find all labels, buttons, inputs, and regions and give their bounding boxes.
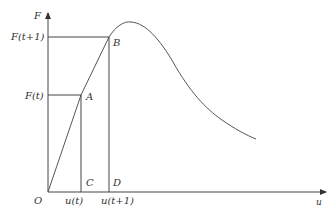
y-tick-f-t: F(t): [24, 90, 44, 101]
point-c-label: C: [86, 177, 94, 188]
point-d-label: D: [112, 177, 121, 188]
y-tick-f-t1: F(t+1): [10, 31, 45, 42]
origin-label: O: [34, 195, 42, 206]
x-tick-u-t: u(t): [65, 195, 83, 206]
point-a-label: A: [85, 91, 93, 102]
y-axis-label: F: [33, 10, 42, 21]
diagram-canvas: F u O F(t+1) F(t) u(t) u(t+1) A B C D: [0, 0, 332, 210]
function-curve: [48, 22, 256, 192]
x-tick-u-t1: u(t+1): [101, 195, 134, 206]
point-b-label: B: [112, 37, 120, 48]
x-axis-label: u: [316, 197, 322, 207]
